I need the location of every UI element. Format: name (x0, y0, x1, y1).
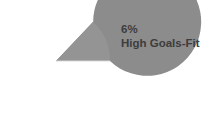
pie-callout-label: 6% High Goals-Fit (121, 22, 209, 50)
callout-percent: 6% (121, 22, 209, 36)
callout-category: High Goals-Fit (121, 36, 209, 50)
pie-chart-figure: 6% High Goals-Fit (0, 0, 209, 114)
pie-chart-graphic (0, 0, 209, 114)
